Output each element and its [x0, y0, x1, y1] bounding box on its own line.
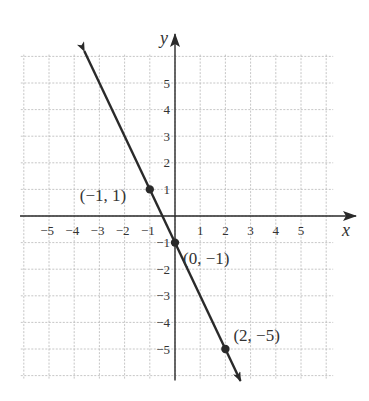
x-tick-label: 2 [222, 223, 229, 238]
y-tick-label: −2 [156, 262, 170, 277]
x-tick-label: −2 [116, 223, 130, 238]
y-tick-label: 5 [164, 76, 171, 91]
y-tick-label: −3 [156, 288, 170, 303]
x-tick-label: −5 [40, 223, 54, 238]
point-label: (2, −5) [233, 326, 279, 345]
x-tick-label: −4 [65, 223, 79, 238]
x-axis-label: x [341, 220, 350, 240]
axes: x y [20, 28, 356, 381]
y-tick-label: 3 [164, 129, 171, 144]
x-tick-label: 1 [197, 223, 204, 238]
y-tick-label: −4 [156, 315, 170, 330]
y-tick-label: 1 [164, 182, 171, 197]
point-label: (−1, 1) [80, 186, 126, 205]
x-tick-label: −1 [141, 223, 155, 238]
x-tick-label: 3 [247, 223, 254, 238]
line-graph: x y −5−4−3−2−11234554321−1−2−3−4−5 (−1, … [0, 0, 369, 401]
x-tick-label: 4 [273, 223, 280, 238]
data-point [221, 345, 229, 353]
y-tick-label: 4 [164, 102, 171, 117]
x-tick-label: 5 [298, 223, 305, 238]
x-tick-label: −3 [91, 223, 105, 238]
data-point [146, 185, 154, 193]
point-label: (0, −1) [183, 249, 229, 268]
data-point [171, 238, 179, 246]
y-axis-label: y [158, 28, 168, 48]
y-tick-label: −5 [156, 342, 170, 357]
y-tick-label: 2 [164, 155, 171, 170]
y-tick-label: −1 [156, 235, 170, 250]
